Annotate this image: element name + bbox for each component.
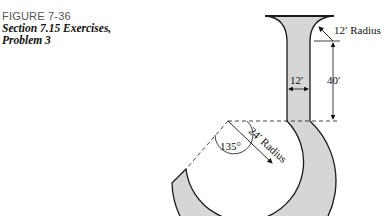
angle-label: 135° — [220, 140, 241, 152]
j-road-shape — [172, 16, 336, 216]
top-radius-leader — [319, 27, 333, 41]
width-label: 12′ — [290, 74, 303, 86]
j-curve-diagram: 12′ Radius 40′ 12′ 135° 24′ Radius — [0, 0, 382, 216]
top-radius-label: 12′ Radius — [334, 24, 381, 36]
height-label: 40′ — [327, 74, 340, 86]
